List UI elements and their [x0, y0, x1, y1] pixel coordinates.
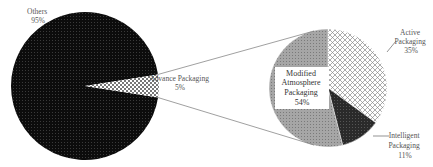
- label-others: Others 95%: [27, 7, 49, 25]
- pie-of-pie-chart: Others 95% Advance Packaging 5% Active P…: [0, 0, 433, 167]
- leader-active: [387, 41, 396, 52]
- label-active-packaging: Active Packaging 35%: [394, 28, 427, 55]
- main-pie: [11, 12, 159, 160]
- label-intelligent-packaging: Intelligent Packaging 11%: [388, 131, 421, 160]
